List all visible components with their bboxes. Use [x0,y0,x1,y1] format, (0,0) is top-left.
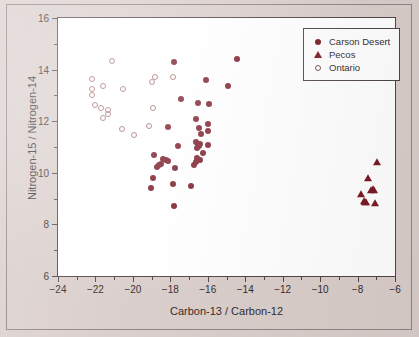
data-point-pecos [362,198,370,205]
data-point-carson-desert [198,131,204,137]
data-point-ontario [100,83,106,89]
data-point-ontario [92,102,98,108]
x-tick--6 [395,276,396,282]
x-axis-title: Carbon-13 / Carbon-12 [57,305,396,317]
data-point-carson-desert [165,158,171,164]
y-tick-label-14: 14 [38,64,49,75]
x-tick-label--8: −8 [352,284,363,295]
y-tick-label-8: 8 [43,219,49,230]
x-tick-label--16: −16 [199,284,216,295]
data-point-ontario [150,105,156,111]
y-minor-tick-11 [54,147,58,148]
y-tick-8 [52,224,58,225]
data-point-ontario [98,105,104,111]
x-tick--22 [95,276,96,282]
x-tick-label--22: −22 [87,284,104,295]
filled-triangle-icon [311,51,325,58]
data-point-carson-desert [195,141,201,147]
data-point-carson-desert [151,152,157,158]
x-tick-label--18: −18 [162,284,179,295]
data-point-ontario [89,76,95,82]
data-point-ontario [89,92,95,98]
figure-container: 6810121416 −24−22−20−18−16−14−12−10−8−6 … [0,0,419,337]
y-tick-16 [52,18,58,19]
data-point-ontario [105,111,111,117]
data-point-carson-desert [194,155,200,161]
data-point-carson-desert [196,143,202,149]
data-point-carson-desert [234,56,240,62]
x-tick--18 [170,276,171,282]
data-point-pecos [361,199,369,206]
data-point-carson-desert [175,143,181,149]
data-point-pecos [371,199,379,206]
x-tick--8 [358,276,359,282]
data-point-carson-desert [203,77,209,83]
data-point-carson-desert [205,121,211,127]
data-point-carson-desert [197,157,203,163]
data-point-ontario [146,123,152,129]
open-circle-icon-glyph [315,65,321,71]
data-point-carson-desert [197,141,203,147]
data-point-carson-desert [172,165,178,171]
x-tick-label--24: −24 [50,284,67,295]
data-point-carson-desert [150,175,156,181]
data-point-carson-desert [165,124,171,130]
x-tick--24 [58,276,59,282]
x-tick-label--20: −20 [124,284,141,295]
data-point-carson-desert [194,145,200,151]
data-point-ontario [120,86,126,92]
legend-label: Ontario [329,62,360,73]
x-tick--16 [208,276,209,282]
data-point-carson-desert [171,203,177,209]
x-tick-label--6: −6 [389,284,400,295]
x-minor-tick--19 [152,276,153,280]
data-point-carson-desert [193,139,199,145]
x-minor-tick--23 [77,276,78,280]
filled-circle-icon [311,39,325,45]
y-minor-tick-7 [54,250,58,251]
data-point-carson-desert [171,59,177,65]
filled-triangle-icon-glyph [314,51,322,58]
x-minor-tick--11 [301,276,302,280]
y-tick-label-12: 12 [38,116,49,127]
y-minor-tick-13 [54,95,58,96]
data-point-pecos [369,185,377,192]
data-point-carson-desert [200,150,206,156]
data-point-carson-desert [225,83,231,89]
x-tick--14 [245,276,246,282]
x-tick-label--12: −12 [274,284,291,295]
data-point-ontario [131,132,137,138]
legend-item-carson-desert: Carson Desert [311,35,390,48]
x-minor-tick--9 [339,276,340,280]
legend-item-ontario: Ontario [311,61,390,74]
legend-label: Pecos [329,49,355,60]
data-point-pecos [357,190,365,197]
x-minor-tick--13 [264,276,265,280]
data-point-carson-desert [170,181,176,187]
y-minor-tick-9 [54,199,58,200]
legend-item-pecos: Pecos [311,48,390,61]
data-point-pecos [367,186,375,193]
data-point-carson-desert [188,183,194,189]
data-point-pecos [364,175,372,182]
y-tick-14 [52,70,58,71]
data-point-carson-desert [163,157,169,163]
data-point-carson-desert [205,128,211,134]
y-tick-label-16: 16 [38,13,49,24]
data-point-ontario [119,126,125,132]
data-point-ontario [105,107,111,113]
y-tick-label-6: 6 [43,271,49,282]
legend-label: Carson Desert [329,36,390,47]
x-tick-label--14: −14 [237,284,254,295]
data-point-ontario [149,79,155,85]
data-point-ontario [170,74,176,80]
data-point-ontario [89,86,95,92]
data-point-carson-desert [156,162,162,168]
x-minor-tick--7 [376,276,377,280]
data-point-pecos [360,197,368,204]
data-point-carson-desert [191,162,197,168]
x-tick-label--10: −10 [312,284,329,295]
y-axis-title: Nitrogen-15 / Nitrogen-14 [26,8,38,268]
filled-circle-icon-glyph [315,39,321,45]
x-tick--20 [133,276,134,282]
